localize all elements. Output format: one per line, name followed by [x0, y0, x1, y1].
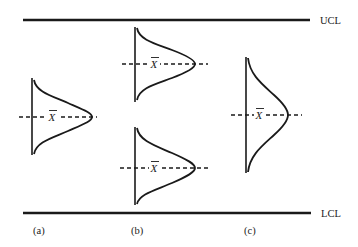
mean-symbol: X — [150, 58, 159, 70]
panel-b-upper-distribution: X — [122, 27, 208, 102]
lcl-label: LCL — [321, 208, 341, 219]
panel-label-a: (a) — [33, 225, 45, 237]
panel-b-lower-distribution: X — [120, 127, 209, 205]
panel-label-c: (c) — [244, 225, 256, 237]
upper-control-limit: UCL — [23, 15, 341, 26]
control-chart-diagram: UCL LCL X X X X — [0, 0, 358, 247]
normal-curve — [137, 128, 195, 204]
panel-c-distribution: X — [231, 57, 302, 173]
mean-symbol: X — [150, 162, 159, 174]
panel-label-b: (b) — [131, 225, 144, 237]
mean-symbol: X — [48, 111, 57, 123]
lower-control-limit: LCL — [23, 208, 341, 219]
panel-a-distribution: X — [19, 78, 97, 155]
mean-symbol: X — [255, 109, 264, 121]
ucl-label: UCL — [320, 15, 341, 26]
